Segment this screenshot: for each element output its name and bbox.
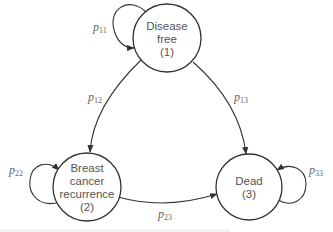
cutoff-footer-strip — [0, 229, 230, 232]
node-1-line-1: Disease — [146, 20, 188, 32]
node-3-line-2: (3) — [242, 188, 256, 200]
node-2-line-1: Breast — [70, 162, 104, 174]
edge-2-to-3 — [118, 194, 217, 203]
node-1-line-3: (1) — [160, 46, 174, 58]
state-transition-diagram: p11 p12 p13 p22 p23 p33 Disease free (1)… — [0, 0, 333, 232]
edge-label-p11: p11 — [92, 20, 107, 35]
edge-1-to-2 — [90, 60, 141, 152]
edge-1-to-3 — [193, 62, 246, 154]
node-1-line-2: free — [157, 33, 177, 45]
edge-label-p22: p22 — [8, 163, 23, 178]
state-node-breast-cancer-recurrence: Breast cancer recurrence (2) — [53, 153, 121, 221]
state-node-dead: Dead (3) — [216, 154, 282, 220]
edge-label-p33: p33 — [308, 163, 323, 178]
edge-label-p23: p23 — [157, 207, 172, 222]
edge-label-p13: p13 — [233, 90, 248, 105]
node-2-line-4: (2) — [80, 201, 94, 213]
node-2-line-2: cancer — [70, 175, 105, 187]
state-node-disease-free: Disease free (1) — [133, 4, 201, 72]
edge-label-p12: p12 — [87, 90, 102, 105]
node-3-line-1: Dead — [235, 175, 263, 187]
node-2-line-3: recurrence — [60, 188, 115, 200]
